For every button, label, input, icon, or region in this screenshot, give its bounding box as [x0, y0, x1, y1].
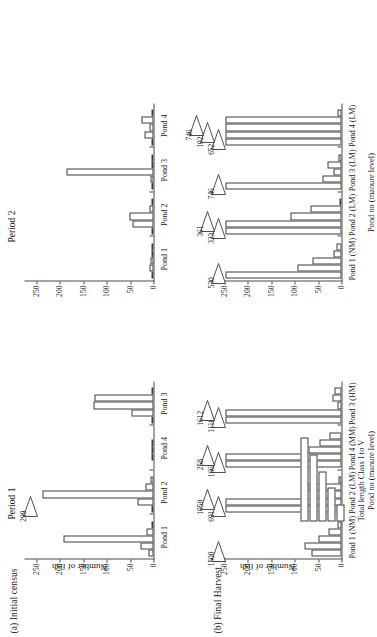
- off-scale-value-label: 1050: [195, 499, 204, 514]
- histogram-bar: [225, 227, 341, 234]
- y-axis-tick-label: 0: [337, 285, 346, 289]
- legend-class-bar: [327, 487, 335, 521]
- off-scale-value-label: 361: [195, 225, 204, 236]
- off-scale-value-label: 299: [18, 510, 27, 521]
- y-axis-tick: [36, 559, 37, 562]
- off-scale-value-label: 746: [184, 129, 193, 140]
- histogram-bar: [225, 220, 341, 227]
- histogram-bar: [145, 483, 153, 490]
- y-axis-tick-label: 150: [266, 285, 275, 296]
- histogram-bar: [151, 453, 153, 460]
- x-axis-group-label: Pond 4: [159, 437, 168, 459]
- y-axis-tick-label: 0: [149, 285, 158, 289]
- y-axis-line: [212, 558, 342, 559]
- histogram-bar: [150, 175, 153, 182]
- histogram-bar: [151, 439, 153, 446]
- histogram-bar: [322, 175, 341, 182]
- y-axis-line: [24, 558, 154, 559]
- panel-tag-final-harvest: (b) Final Harvest: [212, 566, 222, 633]
- histogram-bar: [225, 138, 341, 145]
- y-axis-tick-label: 250: [32, 563, 41, 574]
- y-axis-tick-label: 150: [78, 285, 87, 296]
- x-axis-group-separator: [149, 147, 153, 148]
- histogram-bar: [336, 243, 341, 250]
- y-axis-tick-label: 50: [125, 285, 134, 293]
- histogram-bar: [151, 271, 153, 278]
- chart-period2-final-harvest: 050100150200250Pond 1 (NM)530Pond 2 (LM)…: [212, 103, 342, 281]
- legend-label: Total length Class I to V: [356, 439, 365, 521]
- y-axis-tick-label: 200: [243, 285, 252, 296]
- y-axis-tick: [59, 559, 60, 562]
- y-axis-tick-label: 100: [102, 285, 111, 296]
- y-axis-tick: [294, 559, 295, 562]
- histogram-bar: [333, 250, 341, 257]
- y-axis-tick-label: 50: [125, 563, 134, 571]
- x-axis-group-label: Pond 3 (LM): [347, 149, 356, 191]
- y-axis-tick: [153, 559, 154, 562]
- off-scale-value-label: 323: [206, 232, 215, 243]
- histogram-bar: [339, 198, 341, 205]
- legend-class-bar: [300, 437, 308, 521]
- x-axis-group-label: Pond 4: [159, 114, 168, 136]
- x-axis-group-separator: [149, 191, 153, 192]
- y-axis-tick: [106, 281, 107, 284]
- y-axis-tick: [83, 559, 84, 562]
- y-axis-tick-label: 200: [55, 563, 64, 574]
- histogram-bar: [151, 521, 153, 528]
- histogram-bar: [131, 409, 153, 416]
- histogram-bar: [151, 416, 153, 423]
- histogram-bar: [150, 257, 153, 264]
- histogram-bar: [137, 498, 153, 505]
- off-scale-value-label: 1612: [195, 410, 204, 425]
- histogram-bar: [337, 109, 341, 116]
- histogram-bar: [304, 542, 341, 549]
- histogram-bar: [225, 123, 341, 130]
- histogram-bar: [140, 542, 153, 549]
- y-axis-tick: [341, 281, 342, 284]
- histogram-bar: [318, 535, 341, 542]
- y-axis-tick: [271, 281, 272, 284]
- histogram-bar: [151, 387, 153, 394]
- x-axis-group-label: Pond 4 (LM): [347, 104, 356, 146]
- x-axis-group-separator: [149, 514, 153, 515]
- off-scale-value-label: 1500: [206, 551, 215, 566]
- y-axis-tick-label: 250: [220, 563, 229, 574]
- histogram-bar: [310, 205, 341, 212]
- histogram-bar: [151, 227, 153, 234]
- histogram-bar: [225, 182, 341, 189]
- y-axis-tick: [59, 281, 60, 284]
- histogram-bar: [338, 154, 341, 161]
- off-scale-value-label: 691: [206, 510, 215, 521]
- y-axis-tick: [153, 281, 154, 284]
- x-axis-group-separator: [149, 469, 153, 470]
- off-scale-value-label: 652: [206, 143, 215, 154]
- histogram-bar: [225, 409, 341, 416]
- histogram-bar: [333, 168, 341, 175]
- histogram-bar: [132, 220, 153, 227]
- x-axis-group-label: Pond 2 (LM): [347, 193, 356, 235]
- histogram-bar: [327, 161, 341, 168]
- y-axis-tick: [341, 559, 342, 562]
- y-axis-tick-label: 150: [266, 563, 275, 574]
- x-axis-group-separator: [337, 425, 341, 426]
- y-axis-tick: [247, 559, 248, 562]
- y-axis-tick: [247, 281, 248, 284]
- y-axis-tick: [36, 281, 37, 284]
- y-axis-tick: [130, 281, 131, 284]
- histogram-bar: [151, 505, 153, 512]
- histogram-bar: [311, 549, 341, 556]
- histogram-bar: [149, 123, 153, 130]
- panel-tag-initial-census: (a) Initial census: [8, 568, 18, 633]
- figure-canvas: (a) Initial census Period 1 Number of fi…: [0, 0, 377, 637]
- x-axis-group-label: Pond 1 (NM): [347, 237, 356, 280]
- x-axis-title-period2-final: Pond no (manure level): [366, 103, 375, 281]
- x-axis-group-label: Pond 1 (NM): [347, 515, 356, 558]
- y-axis-tick: [83, 281, 84, 284]
- legend-class-bar: [318, 471, 326, 521]
- x-axis-title-period1-final: Pond no (manure level): [366, 381, 375, 559]
- y-axis-tick-label: 100: [290, 563, 299, 574]
- histogram-bar: [144, 131, 153, 138]
- histogram-bar: [151, 243, 153, 250]
- histogram-bar: [93, 401, 153, 408]
- y-axis-tick: [271, 559, 272, 562]
